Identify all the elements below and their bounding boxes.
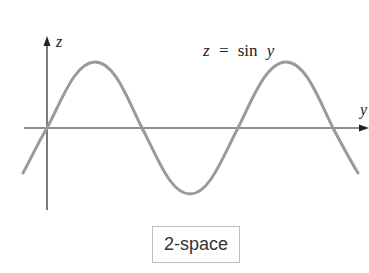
space-tag-label: 2-space xyxy=(164,234,228,255)
z-axis-arrow-icon xyxy=(44,36,51,46)
y-axis-label: y xyxy=(358,101,368,119)
y-axis-arrow-icon xyxy=(359,125,369,132)
space-tag: 2-space xyxy=(152,226,240,263)
equation-label: z = sin y xyxy=(202,41,275,60)
z-axis-label: z xyxy=(55,33,63,50)
